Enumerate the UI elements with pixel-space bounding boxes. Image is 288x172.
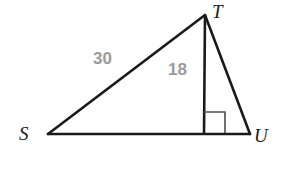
vertex-label-t: T: [212, 2, 223, 21]
right-angle-icon: [204, 112, 225, 133]
measure-label-st: 30: [93, 50, 112, 67]
segment-TU: [205, 15, 250, 134]
triangle-diagram-svg: [0, 0, 288, 172]
vertex-label-u: U: [254, 126, 268, 145]
vertex-label-s: S: [19, 124, 29, 143]
geometry-figure-canvas: S T U 30 18: [0, 0, 288, 172]
segment-altitude-TF: [204, 15, 205, 134]
measure-label-altitude: 18: [168, 61, 187, 78]
